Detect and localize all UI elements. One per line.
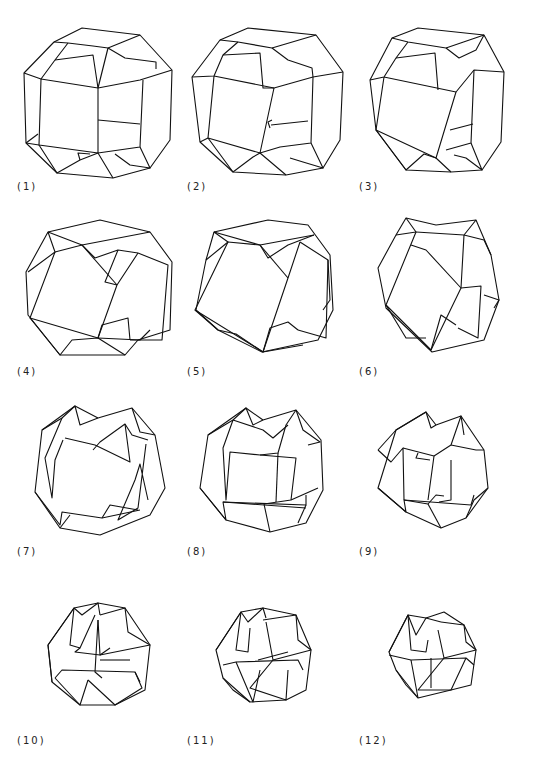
panel-label: (12)	[359, 735, 388, 746]
panel-11: (11)	[178, 560, 356, 773]
panel-label: (1)	[17, 181, 37, 192]
polyhedron-drawing	[356, 200, 533, 380]
panel-3: (3)	[356, 0, 533, 200]
panel-label: (9)	[359, 546, 379, 557]
polyhedron-drawing	[356, 0, 533, 200]
panel-7: (7)	[0, 380, 178, 560]
panel-label: (11)	[187, 735, 216, 746]
panel-label: (8)	[187, 546, 207, 557]
panel-6: (6)	[356, 200, 533, 380]
panel-5: (5)	[178, 200, 356, 380]
panel-label: (6)	[359, 366, 379, 377]
panel-10: (10)	[0, 560, 178, 773]
panel-label: (5)	[187, 366, 207, 377]
panel-2: (2)	[178, 0, 356, 200]
panel-4: (4)	[0, 200, 178, 380]
panel-12: (12)	[356, 560, 533, 773]
panel-label: (2)	[187, 181, 207, 192]
panel-8: (8)	[178, 380, 356, 560]
panel-label: (10)	[17, 735, 46, 746]
polyhedron-drawing	[0, 200, 178, 380]
panel-label: (4)	[17, 366, 37, 377]
panel-label: (7)	[17, 546, 37, 557]
polyhedron-drawing	[178, 200, 356, 380]
polyhedron-drawing	[356, 380, 533, 560]
panel-label: (3)	[359, 181, 379, 192]
polyhedron-drawing	[178, 380, 356, 560]
panel-1: (1)	[0, 0, 178, 200]
polyhedron-drawing	[178, 0, 356, 200]
polyhedron-drawing	[0, 380, 178, 560]
panel-9: (9)	[356, 380, 533, 560]
polyhedron-drawing	[0, 0, 178, 200]
